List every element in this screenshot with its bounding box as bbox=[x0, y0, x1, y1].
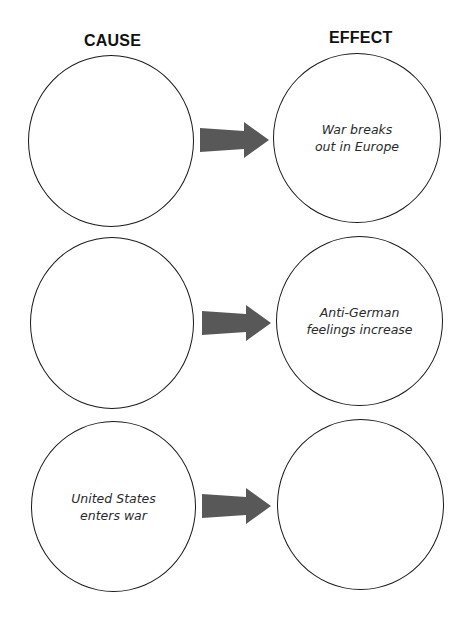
cause-text-3: United States enters war bbox=[71, 490, 156, 524]
arrow-right-icon bbox=[200, 486, 274, 526]
effect-circle-1[interactable]: War breaks out in Europe bbox=[273, 53, 441, 223]
arrow-right-icon bbox=[198, 120, 272, 160]
cause-circle-3[interactable]: United States enters war bbox=[31, 421, 196, 592]
effect-heading: EFFECT bbox=[329, 29, 392, 47]
cause-circle-1[interactable] bbox=[28, 55, 194, 227]
effect-circle-3[interactable] bbox=[277, 419, 444, 590]
cause-circle-2[interactable] bbox=[30, 237, 194, 409]
effect-text-2: Anti-German feelings increase bbox=[306, 304, 412, 338]
arrow-right-icon bbox=[200, 303, 274, 343]
effect-circle-2[interactable]: Anti-German feelings increase bbox=[276, 236, 443, 406]
cause-heading: CAUSE bbox=[84, 32, 141, 50]
effect-text-1: War breaks out in Europe bbox=[315, 121, 399, 155]
